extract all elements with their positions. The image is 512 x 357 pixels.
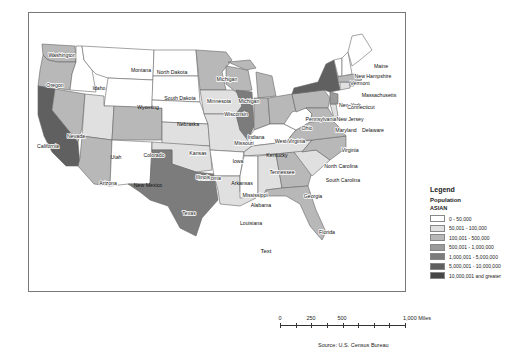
svg-text:Texas: Texas <box>182 210 196 216</box>
legend-title: Legend <box>430 186 512 193</box>
svg-text:Indiana: Indiana <box>247 134 264 140</box>
legend-row: 5,000,001 - 10,000,000 <box>430 262 512 271</box>
map-annotation-text: Text <box>260 248 271 254</box>
svg-text:Arkansas: Arkansas <box>231 180 253 186</box>
svg-text:Illinois: Illinois <box>196 174 211 180</box>
svg-text:Oregon: Oregon <box>46 82 63 88</box>
svg-text:New Mexico: New Mexico <box>134 182 162 188</box>
legend-swatch <box>430 263 445 270</box>
state-connecticut[interactable] <box>340 82 350 90</box>
legend-swatch <box>430 234 445 241</box>
svg-text:Alabama: Alabama <box>251 202 272 208</box>
svg-text:Michigan: Michigan <box>217 76 238 82</box>
legend-row: 500,001 - 1,000,000 <box>430 243 512 252</box>
svg-text:Missouri: Missouri <box>234 140 253 146</box>
legend-swatch <box>430 272 445 279</box>
svg-text:Pennsylvania: Pennsylvania <box>306 116 337 122</box>
svg-text:Vermont: Vermont <box>350 80 370 86</box>
state-new-york[interactable] <box>292 60 340 94</box>
source-credit: Source: U.S. Census Bureau <box>318 342 389 348</box>
svg-text:North Carolina: North Carolina <box>324 163 358 169</box>
legend-row: 50,001 - 100,000 <box>430 224 512 233</box>
svg-text:Montana: Montana <box>131 67 151 73</box>
svg-text:South Carolina: South Carolina <box>326 177 360 183</box>
svg-text:Maine: Maine <box>374 63 388 69</box>
svg-text:Kentucky: Kentucky <box>266 152 288 158</box>
svg-text:California: California <box>37 143 59 149</box>
state-new-jersey[interactable] <box>330 92 338 104</box>
svg-text:Ohio: Ohio <box>302 125 313 131</box>
svg-text:Kansas: Kansas <box>189 150 207 156</box>
svg-text:Louisiana: Louisiana <box>240 220 262 226</box>
svg-text:Connecticut: Connecticut <box>347 104 375 110</box>
svg-text:Utah: Utah <box>111 154 122 160</box>
svg-text:Michigan: Michigan <box>239 98 260 104</box>
svg-text:Idaho: Idaho <box>93 85 106 91</box>
legend-row: 100,001 - 500,000 <box>430 233 512 242</box>
svg-text:Maryland: Maryland <box>335 127 356 133</box>
legend-swatch <box>430 253 445 260</box>
svg-text:Delaware: Delaware <box>362 127 384 133</box>
state-maine[interactable] <box>348 34 372 66</box>
svg-text:West Virginia: West Virginia <box>275 138 305 144</box>
legend-subtitle: Population <box>430 197 512 203</box>
svg-text:Tennessee: Tennessee <box>269 169 294 175</box>
svg-text:New Hampshire: New Hampshire <box>355 73 392 79</box>
svg-text:Minnesota: Minnesota <box>207 98 231 104</box>
svg-text:South Dakota: South Dakota <box>164 95 196 101</box>
svg-text:Georgia: Georgia <box>304 193 323 199</box>
svg-text:Mississippi: Mississippi <box>242 192 267 198</box>
legend: Legend Population ASIAN 0 - 50,000 50,00… <box>430 186 512 281</box>
svg-text:Nevada: Nevada <box>67 133 85 139</box>
legend-swatch <box>430 215 445 222</box>
svg-text:Iowa: Iowa <box>233 158 244 164</box>
state-arizona[interactable] <box>78 136 112 186</box>
legend-swatch <box>430 244 445 251</box>
legend-field: ASIAN <box>430 205 512 211</box>
legend-row: 10,000,001 and greater <box>430 271 512 280</box>
svg-text:Arizona: Arizona <box>99 180 117 186</box>
svg-text:Colorado: Colorado <box>143 152 164 158</box>
svg-text:Washington: Washington <box>48 52 75 58</box>
state-colorado[interactable] <box>112 106 162 140</box>
scale-bar: 0 250 500 1,000 Miles <box>280 315 420 335</box>
legend-row: 1,000,001 - 5,000,000 <box>430 252 512 261</box>
svg-text:Wyoming: Wyoming <box>137 104 159 110</box>
svg-text:Wisconsin: Wisconsin <box>224 111 248 117</box>
legend-swatch <box>430 225 445 232</box>
us-choropleth-map: Washington Oregon Idaho California Nevad… <box>0 0 512 357</box>
svg-text:Massachusetts: Massachusetts <box>362 92 397 98</box>
svg-text:Florida: Florida <box>319 229 335 235</box>
svg-text:New Jersey: New Jersey <box>336 116 364 122</box>
svg-text:North Dakota: North Dakota <box>157 69 188 75</box>
svg-text:Virginia: Virginia <box>341 147 358 153</box>
svg-text:Nebraska: Nebraska <box>177 121 199 127</box>
legend-row: 0 - 50,000 <box>430 214 512 223</box>
